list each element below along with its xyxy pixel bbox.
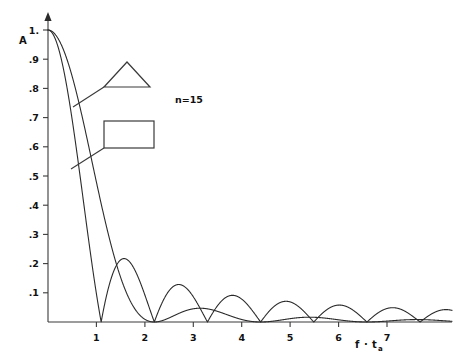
rectangle-leader-line	[71, 148, 104, 169]
y-tick: .6	[29, 141, 48, 152]
rectangle-icon	[104, 121, 154, 148]
y-axis-arrow-icon	[44, 12, 51, 21]
y-tick-label: 1.	[29, 25, 39, 36]
y-tick: .7	[29, 112, 48, 123]
x-tick: 2	[142, 322, 149, 343]
x-axis-label: f · t a	[355, 339, 383, 353]
x-tick-label: 3	[190, 332, 197, 343]
x-tick-label: 7	[384, 332, 391, 343]
x-tick: 5	[287, 322, 294, 343]
x-axis-label-subscript: a	[378, 345, 383, 353]
rectangular-window-curve	[48, 30, 452, 322]
spectral-window-chart: 1. .9 .8 .7 .6 .5	[0, 0, 457, 356]
triangular-window-curve	[48, 30, 452, 322]
x-axis-label-t: t	[372, 339, 377, 350]
y-tick-label: .3	[29, 229, 39, 240]
y-tick-label: .1	[29, 287, 39, 298]
y-tick: .9	[29, 54, 48, 65]
triangle-icon	[104, 62, 150, 87]
y-tick-label: .6	[29, 141, 40, 152]
x-tick: 6	[335, 322, 342, 343]
x-tick: 3	[190, 322, 197, 343]
x-tick-label: 6	[335, 332, 342, 343]
x-tick-label: 2	[142, 332, 149, 343]
y-tick-label: .7	[29, 112, 39, 123]
order-annotation: n=15	[175, 94, 203, 105]
y-tick-label: .8	[29, 83, 40, 94]
x-tick: 7	[384, 322, 391, 343]
y-tick-label: .2	[29, 258, 39, 269]
x-axis-label-dot: ·	[364, 339, 368, 350]
y-axis-label: A	[19, 35, 27, 46]
y-tick-group: 1. .9 .8 .7 .6 .5	[29, 25, 48, 299]
x-tick-group: 1 2 3 4 5 6 7	[93, 322, 390, 343]
y-tick: .3	[29, 229, 48, 240]
x-tick: 4	[238, 322, 245, 343]
y-tick: .1	[29, 287, 48, 298]
y-tick-label: .9	[29, 54, 39, 65]
x-tick-label: 5	[287, 332, 294, 343]
y-tick-label: .4	[29, 200, 40, 211]
y-tick: .2	[29, 258, 48, 269]
x-tick: 1	[93, 322, 100, 343]
y-tick-label: .5	[29, 171, 39, 182]
y-tick: .4	[29, 200, 48, 211]
chart-canvas: 1. .9 .8 .7 .6 .5	[0, 0, 457, 356]
y-tick: 1.	[29, 25, 48, 36]
x-tick-label: 1	[93, 332, 100, 343]
y-tick: .8	[29, 83, 48, 94]
y-axis	[44, 12, 51, 322]
x-axis-label-f: f	[355, 339, 360, 350]
x-tick-label: 4	[238, 332, 245, 343]
y-tick: .5	[29, 171, 48, 182]
